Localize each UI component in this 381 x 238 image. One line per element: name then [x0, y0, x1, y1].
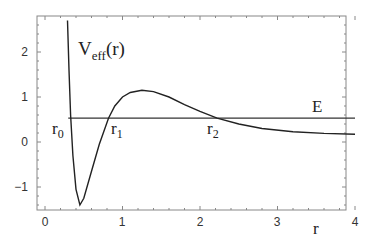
y-tick-1: 1: [21, 90, 28, 104]
x-tick-4: 4: [352, 215, 359, 229]
chart: 0 1 2 3 4 2 1 0 −1 Veff(r) E r0 r1 r2 r: [0, 0, 381, 238]
r2-label: r2: [207, 119, 219, 141]
y-tick-minus-1: −1: [14, 180, 28, 194]
y-tick-2: 2: [21, 45, 28, 59]
r1-label: r1: [111, 119, 123, 141]
x-tick-2: 2: [197, 215, 204, 229]
energy-label: E: [312, 97, 322, 116]
x-tick-3: 3: [274, 215, 281, 229]
r0-label: r0: [52, 119, 64, 141]
y-tick-0: 0: [21, 135, 28, 149]
veff-label: Veff(r): [78, 38, 125, 63]
x-tick-0: 0: [42, 215, 49, 229]
x-axis-label: r: [313, 219, 319, 238]
x-tick-1: 1: [119, 215, 126, 229]
